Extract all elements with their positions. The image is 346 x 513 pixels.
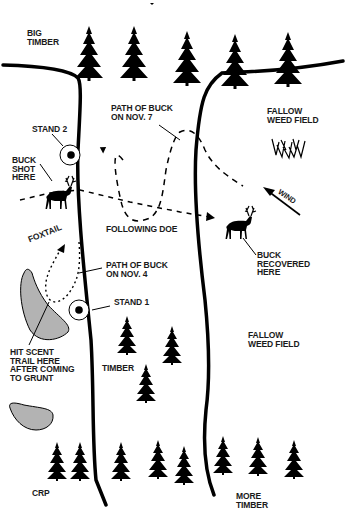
label-buck-recovered: BUCK RECOVERED HERE [257, 251, 310, 277]
bedding-area-1 [21, 269, 69, 339]
label-fallow-top: FALLOW WEED FIELD [267, 107, 318, 124]
hunting-map: BIG TIMBER FALLOW WEED FIELD PATH OF BUC… [0, 0, 346, 513]
buck-path-nov7 [115, 130, 243, 221]
buck-shot-leader [40, 164, 52, 181]
stand1-leader [92, 306, 110, 310]
bottom-trees [47, 436, 304, 485]
timber-trees [117, 316, 182, 403]
label-stand-1: STAND 1 [114, 298, 149, 307]
label-following-doe: FOLLOWING DOE [106, 225, 177, 234]
label-path-nov7: PATH OF BUCK ON NOV. 7 [111, 104, 173, 121]
path-nov7-arrowhead [100, 145, 108, 154]
big-timber-trees [75, 26, 302, 89]
path-nov7-leader [159, 125, 180, 140]
label-path-nov4: PATH OF BUCK ON NOV. 4 [106, 261, 168, 278]
label-hit-scent: HIT SCENT TRAIL HERE AFTER COMING TO GRU… [10, 348, 74, 382]
stand-1-icon[interactable] [69, 300, 89, 320]
following-doe-path [20, 190, 210, 217]
buck-recovered-deer-icon [226, 206, 257, 239]
label-crp: CRP [32, 489, 50, 498]
path-nov4-arrowhead [57, 244, 65, 253]
right-fence-line [195, 61, 343, 495]
cut-off-title-fragment [150, 3, 154, 5]
stand2-leader [52, 134, 63, 146]
bedding-area-2 [10, 403, 53, 430]
stand-2-icon[interactable] [60, 145, 80, 165]
label-more-timber: MORE TIMBER [236, 492, 268, 509]
doe-path-arrowhead [206, 212, 215, 221]
label-buck-shot: BUCK SHOT HERE [12, 156, 36, 182]
label-timber: TIMBER [102, 364, 134, 373]
buck-recovered-leader [243, 238, 256, 255]
weed-tuft-icon [272, 139, 305, 158]
label-stand-2: STAND 2 [32, 125, 67, 134]
label-big-timber: BIG TIMBER [27, 29, 59, 46]
label-fallow-bottom: FALLOW WEED FIELD [248, 331, 299, 348]
